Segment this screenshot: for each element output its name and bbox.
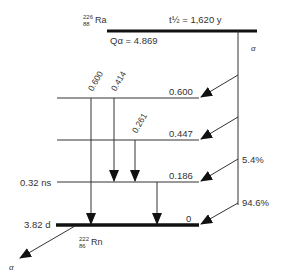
parent-nucleus-label: 226 88 Ra: [83, 15, 113, 27]
alpha-branch-0447: [201, 117, 238, 139]
level-energy-0600: 0.600: [169, 87, 193, 97]
daughter-mass-number: 222: [79, 236, 89, 242]
daughter-alpha-arrow: [20, 226, 75, 258]
lifetime-0186: 0.32 ns: [20, 178, 51, 188]
branch-intensity-0186: 5.4%: [242, 155, 264, 165]
alpha-branch-ground: [201, 203, 238, 224]
daughter-alpha-label: α: [9, 264, 14, 272]
level-energy-0186: 0.186: [169, 171, 193, 181]
branch-intensity-ground: 94.6%: [242, 198, 269, 208]
parent-symbol: Ra: [95, 16, 107, 25]
daughter-symbol: Rn: [91, 238, 103, 247]
daughter-nucleus-label: 222 86 Rn: [79, 237, 109, 249]
level-energy-ground: 0: [186, 214, 191, 224]
parent-mass-number: 226: [83, 14, 93, 20]
level-energy-0447: 0.447: [169, 129, 193, 139]
alpha-branch-0186: [201, 159, 238, 181]
parent-atomic-number: 88: [83, 21, 90, 27]
q-value: Qα = 4.869: [110, 36, 157, 46]
parent-alpha-label: α: [251, 45, 256, 53]
daughter-atomic-number: 86: [79, 243, 86, 249]
alpha-branch-0600: [201, 75, 238, 97]
lifetime-ground: 3.82 d: [24, 220, 50, 230]
parent-half-life: t½ = 1,620 y: [169, 15, 222, 25]
